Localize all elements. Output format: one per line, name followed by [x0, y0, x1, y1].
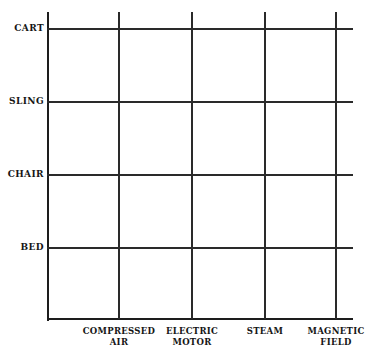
gridline-horizontal-sling: [47, 101, 353, 103]
gridline-vertical-electric-motor: [191, 12, 193, 319]
gridline-vertical-steam: [264, 12, 266, 319]
gridline-vertical-magnetic-field: [335, 12, 337, 319]
x-axis-tick-compressed-air: COMPRESSED AIR: [83, 326, 155, 348]
y-axis-tick-label-sling: SLING: [1, 96, 44, 106]
y-axis-tick-label-cart: CART: [1, 23, 44, 33]
x-axis-line: [47, 318, 353, 320]
y-axis-line: [47, 12, 49, 321]
y-axis-tick-chair: CHAIR: [0, 169, 44, 179]
y-axis-tick-cart: CART: [0, 23, 44, 33]
x-axis-tick-label-magnetic-field-line1: MAGNETIC: [308, 326, 365, 336]
gridline-vertical-compressed-air: [118, 12, 120, 319]
gridline-horizontal-chair: [47, 174, 353, 176]
y-axis-tick-bed: BED: [0, 242, 44, 252]
x-axis-tick-magnetic-field: MAGNETIC FIELD: [308, 326, 365, 348]
x-axis-tick-label-electric-motor-line2: MOTOR: [166, 337, 218, 348]
x-axis-tick-electric-motor: ELECTRIC MOTOR: [166, 326, 218, 348]
x-axis-tick-label-steam-line1: STEAM: [247, 326, 283, 336]
gridline-horizontal-cart: [47, 28, 353, 30]
gridline-horizontal-bed: [47, 247, 353, 249]
matrix-grid-chart: CART SLING CHAIR BED COMPRESSED AIR ELEC…: [0, 0, 368, 355]
y-axis-tick-sling: SLING: [0, 96, 44, 106]
x-axis-tick-label-magnetic-field-line2: FIELD: [308, 337, 365, 348]
x-axis-tick-label-compressed-air-line2: AIR: [83, 337, 155, 348]
x-axis-tick-label-compressed-air-line1: COMPRESSED: [83, 326, 155, 336]
x-axis-tick-steam: STEAM: [247, 326, 283, 337]
y-axis-tick-label-bed: BED: [1, 242, 44, 252]
y-axis-tick-label-chair: CHAIR: [1, 169, 44, 179]
x-axis-tick-label-electric-motor-line1: ELECTRIC: [166, 326, 218, 336]
